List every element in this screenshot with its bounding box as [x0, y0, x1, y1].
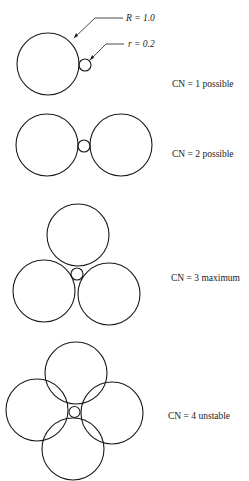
large-sphere: [78, 263, 140, 325]
small-sphere: [79, 59, 91, 71]
row-cn3: CN = 3 maximum: [13, 204, 241, 325]
row-cn2: CN = 2 possible: [16, 114, 234, 176]
large-sphere: [16, 114, 78, 176]
small-sphere: [78, 140, 90, 152]
large-sphere: [6, 379, 68, 441]
large-sphere: [81, 382, 143, 444]
large-sphere: [13, 260, 75, 322]
label-cn2: CN = 2 possible: [172, 149, 234, 159]
leader-line-R: [74, 18, 123, 38]
arrowhead-icon: [90, 55, 94, 60]
large-sphere: [17, 33, 79, 95]
label-cn1: CN = 1 possible: [172, 79, 234, 89]
small-sphere: [69, 407, 80, 418]
label-large-radius: R = 1.0: [125, 13, 155, 23]
label-cn3: CN = 3 maximum: [171, 273, 241, 283]
large-sphere: [45, 342, 107, 404]
row-cn4: CN = 4 unstable: [6, 342, 230, 480]
label-small-radius: r = 0.2: [128, 39, 155, 49]
large-sphere: [90, 114, 152, 176]
arrowhead-icon: [74, 33, 78, 38]
large-sphere: [47, 204, 109, 266]
small-sphere: [71, 268, 83, 280]
coordination-diagram: R = 1.0 r = 0.2 CN = 1 possible CN = 2 p…: [0, 0, 249, 481]
row-cn1: R = 1.0 r = 0.2 CN = 1 possible: [17, 13, 234, 95]
large-sphere: [42, 418, 104, 480]
leader-line-r: [90, 44, 124, 60]
label-cn4: CN = 4 unstable: [168, 411, 230, 421]
